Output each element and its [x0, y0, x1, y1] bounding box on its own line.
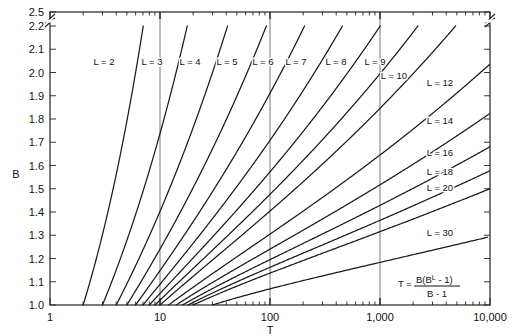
- curve-label-L-8: L = 8: [325, 56, 346, 67]
- y-tick-label: 1.0: [29, 299, 44, 311]
- y-tick-label: 1.5: [29, 183, 44, 195]
- y-tick-label: 2.2: [29, 20, 44, 32]
- y-tick-label: 1.1: [29, 276, 44, 288]
- curve-label-L-14: L = 14: [427, 115, 453, 126]
- curve-label-L-30: L = 30: [427, 227, 453, 238]
- equation-lhs: T =: [398, 278, 412, 289]
- y-tick-label: 1.2: [29, 253, 44, 265]
- curve-label-L-4: L = 4: [179, 56, 200, 67]
- y-tick-label: 2.5: [29, 6, 44, 18]
- curve-label-L-16: L = 16: [427, 147, 453, 158]
- chart-root: 1.01.11.21.31.41.51.61.71.81.92.02.12.22…: [0, 0, 513, 336]
- nomograph-svg: 1.01.11.21.31.41.51.61.71.81.92.02.12.22…: [0, 0, 513, 336]
- y-tick-label: 1.4: [29, 206, 44, 218]
- x-tick-label: 10,000: [473, 311, 507, 323]
- curve-label-L-9: L = 9: [364, 56, 385, 67]
- curve-label-L-7: L = 7: [285, 56, 306, 67]
- curve-label-L-18: L = 18: [427, 166, 453, 177]
- y-tick-label: 2.1: [29, 43, 44, 55]
- equation-denominator: B - 1: [427, 288, 447, 299]
- curve-label-L-3: L = 3: [141, 56, 162, 67]
- x-tick-label: 10: [154, 311, 166, 323]
- x-tick-label: 100: [261, 311, 279, 323]
- curve-label-L-12: L = 12: [427, 77, 453, 88]
- y-axis-title: B: [12, 168, 19, 180]
- curve-label-L-6: L = 6: [252, 56, 273, 67]
- y-tick-label: 1.9: [29, 90, 44, 102]
- curve-label-L-20: L = 20: [427, 182, 453, 193]
- x-axis-title: T: [267, 324, 274, 336]
- y-tick-label: 1.3: [29, 229, 44, 241]
- curve-label-L-5: L = 5: [216, 56, 237, 67]
- y-tick-label: 1.6: [29, 160, 44, 172]
- curve-label-L-10: L = 10: [381, 70, 407, 81]
- y-tick-label: 2.0: [29, 67, 44, 79]
- x-tick-label: 1,000: [366, 311, 394, 323]
- curve-label-L-2: L = 2: [93, 56, 114, 67]
- x-tick-label: 1: [47, 311, 53, 323]
- y-tick-label: 1.7: [29, 136, 44, 148]
- y-tick-label: 1.8: [29, 113, 44, 125]
